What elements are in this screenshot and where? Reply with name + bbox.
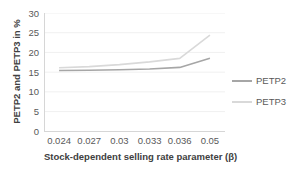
x-axis-title: Stock-dependent selling rate parameter (…: [44, 151, 224, 162]
x-tick-label: 0.03: [110, 135, 129, 146]
y-tick-label: 0: [0, 126, 39, 137]
y-tick-label: 10: [0, 86, 39, 97]
x-tick-label: 0.024: [47, 135, 71, 146]
y-tick-label: 20: [0, 47, 39, 58]
x-tick-label: 0.033: [138, 135, 162, 146]
y-tick-label: 5: [0, 106, 39, 117]
legend-label: PETP3: [256, 96, 286, 107]
y-tick-label: 15: [0, 67, 39, 78]
legend-line-marker: [232, 80, 252, 82]
series-line-petp2: [59, 58, 210, 70]
x-axis-line: [44, 131, 225, 132]
legend-label: PETP2: [256, 75, 286, 86]
series-line-petp3: [59, 35, 210, 68]
y-tick-label: 30: [0, 8, 39, 19]
x-tick-label: 0.05: [201, 135, 220, 146]
chart-legend: PETP2PETP3: [232, 74, 286, 116]
y-axis-line: [44, 13, 45, 132]
x-tick-label: 0.036: [168, 135, 192, 146]
y-tick-label: 25: [0, 27, 39, 38]
legend-item-petp2: PETP2: [232, 74, 286, 87]
plot-area: [44, 13, 225, 132]
line-chart: PETP2 and PETP3 in % 051015202530 0.0240…: [0, 0, 294, 171]
legend-line-marker: [232, 101, 252, 103]
x-tick-label: 0.027: [77, 135, 101, 146]
legend-item-petp3: PETP3: [232, 95, 286, 108]
